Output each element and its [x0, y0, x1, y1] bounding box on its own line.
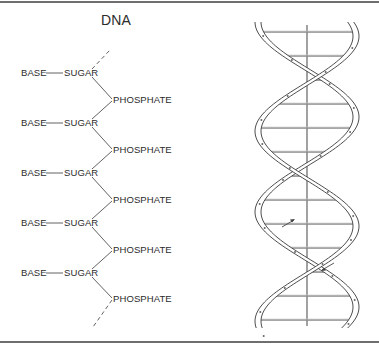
helix-strand-2-edge-b: [261, 22, 359, 328]
double-helix: [255, 22, 359, 337]
dna-diagram: [0, 0, 379, 353]
helix-strand-1-edge-b: [261, 22, 359, 328]
backbone-lines: [46, 50, 112, 327]
